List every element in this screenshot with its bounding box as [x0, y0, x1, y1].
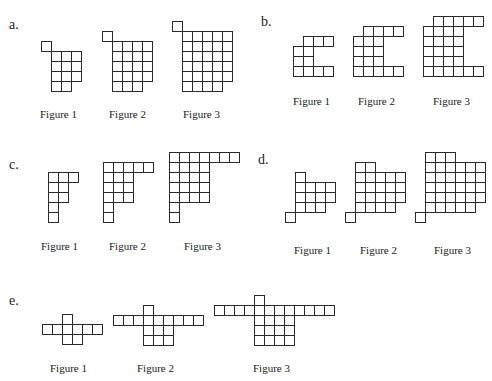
- grid-square: [324, 305, 335, 316]
- grid-square: [143, 162, 154, 173]
- grid-square: [193, 315, 204, 326]
- grid-square: [199, 192, 210, 203]
- grid-square: [393, 26, 404, 37]
- grid-square: [393, 66, 404, 77]
- figure-caption: Figure 2: [109, 108, 146, 120]
- grid-square: [345, 212, 356, 223]
- grid-square: [473, 66, 484, 77]
- grid-square: [61, 81, 72, 92]
- grid-square: [169, 212, 180, 223]
- figure-caption: Figure 2: [109, 240, 146, 252]
- grid-square: [383, 26, 394, 37]
- grid-square: [415, 212, 426, 223]
- grid-square: [132, 81, 143, 92]
- figure-caption: Figure 1: [294, 244, 331, 256]
- grid-square: [71, 71, 82, 82]
- grid-square: [323, 66, 334, 77]
- grid-square: [68, 172, 79, 183]
- grid-square: [72, 334, 83, 345]
- grid-square: [92, 324, 103, 335]
- figure-caption: Figure 1: [41, 240, 78, 252]
- figure-caption: Figure 3: [183, 108, 220, 120]
- grid-square: [284, 335, 295, 346]
- figure-caption: Figure 3: [433, 95, 470, 107]
- figure-caption: Figure 3: [434, 244, 471, 256]
- grid-square: [385, 202, 396, 213]
- section-label-a: a.: [9, 18, 19, 32]
- grid-square: [222, 71, 233, 82]
- grid-square: [212, 81, 223, 92]
- grid-square: [163, 335, 174, 346]
- figure-caption: Figure 3: [253, 362, 290, 374]
- grid-square: [325, 192, 336, 203]
- grid-square: [48, 212, 59, 223]
- figure-caption: Figure 1: [50, 362, 87, 374]
- grid-square: [123, 192, 134, 203]
- grid-square: [475, 192, 486, 203]
- grid-square: [315, 202, 326, 213]
- figure-caption: Figure 3: [184, 240, 221, 252]
- grid-square: [58, 192, 69, 203]
- figure-caption: Figure 2: [360, 244, 397, 256]
- figure-caption: Figure 2: [137, 362, 174, 374]
- grid-square: [473, 16, 484, 27]
- grid-square: [395, 192, 406, 203]
- section-label-d: d.: [258, 153, 269, 167]
- grid-square: [323, 36, 334, 47]
- grid-square: [465, 202, 476, 213]
- grid-square: [103, 212, 114, 223]
- figure-caption: Figure 1: [293, 95, 330, 107]
- grid-square: [229, 152, 240, 163]
- section-label-e: e.: [9, 294, 19, 308]
- section-label-c: c.: [9, 158, 19, 172]
- grid-square: [285, 212, 296, 223]
- grid-square: [142, 71, 153, 82]
- figure-caption: Figure 2: [358, 95, 395, 107]
- figure-caption: Figure 1: [40, 108, 77, 120]
- section-label-b: b.: [261, 15, 272, 29]
